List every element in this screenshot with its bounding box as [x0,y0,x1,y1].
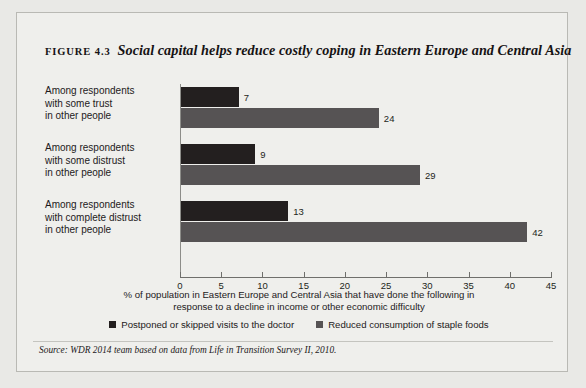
bar-reduced-consumption [181,108,379,128]
x-axis-title-line-1: % of population in Eastern Europe and Ce… [45,289,553,301]
figure-card: FIGURE 4.3Social capital helps reduce co… [16,12,568,372]
x-tick-45 [551,272,552,278]
source-divider [33,341,553,342]
legend-label-reduced-consumption: Reduced consumption of staple foods [328,319,489,330]
category-label-line: Among respondents [45,142,173,155]
x-tick-40 [510,272,511,278]
category-label-line: Among respondents [45,85,173,98]
figure-title-row: FIGURE 4.3Social capital helps reduce co… [45,41,551,59]
x-tick-10 [262,272,263,278]
x-tick-0 [180,272,181,278]
bar-postponed-visits [181,201,288,221]
legend-label-postponed-visits: Postponed or skipped visits to the docto… [121,319,294,330]
bar-value-label: 9 [260,149,265,160]
bar-postponed-visits [181,144,255,164]
legend-item-postponed-visits: Postponed or skipped visits to the docto… [109,319,294,330]
category-label-line: with some distrust [45,155,173,168]
chart-plot-area: 051015202530354045 Among respondentswith… [45,75,553,283]
category-label-line: with some trust [45,98,173,111]
category-label-line: Among respondents [45,199,173,212]
figure-title: Social capital helps reduce costly copin… [118,42,572,58]
bar-postponed-visits [181,87,239,107]
x-tick-15 [304,272,305,278]
x-tick-5 [221,272,222,278]
source-note: Source: WDR 2014 team based on data from… [39,345,336,355]
x-tick-30 [427,272,428,278]
x-axis-line [180,277,551,278]
legend-swatch-icon-dark [109,321,116,328]
bar-value-label: 29 [425,170,436,181]
category-label: Among respondentswith some distrustin ot… [45,142,173,180]
x-tick-35 [469,272,470,278]
x-tick-25 [386,272,387,278]
chart-legend: Postponed or skipped visits to the docto… [45,319,553,330]
x-axis-title-line-2: response to a decline in income or other… [45,301,553,313]
bar-value-label: 13 [293,206,304,217]
category-label-line: in other people [45,224,173,237]
legend-item-reduced-consumption: Reduced consumption of staple foods [316,319,489,330]
bar-reduced-consumption [181,222,527,242]
category-label-line: in other people [45,110,173,123]
category-label-line: with complete distrust [45,212,173,225]
x-axis-title: % of population in Eastern Europe and Ce… [45,289,553,312]
legend-swatch-icon-gray [316,321,323,328]
figure-number: FIGURE 4.3 [45,46,111,57]
bar-reduced-consumption [181,165,420,185]
bar-value-label: 24 [384,113,395,124]
bar-value-label: 7 [244,92,249,103]
category-label: Among respondentswith some trustin other… [45,85,173,123]
bar-value-label: 42 [532,227,543,238]
category-label-line: in other people [45,167,173,180]
category-label: Among respondentswith complete distrusti… [45,199,173,237]
x-tick-20 [345,272,346,278]
